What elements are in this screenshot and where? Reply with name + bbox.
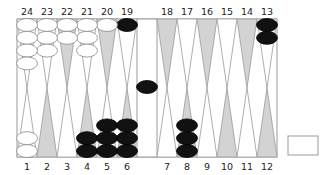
point-label-6: 6 [124, 161, 130, 172]
point-label-17: 17 [181, 6, 193, 17]
point-label-15: 15 [221, 6, 233, 17]
black-checker[interactable] [177, 145, 198, 158]
black-checker[interactable] [97, 145, 118, 158]
white-checker[interactable] [77, 19, 98, 32]
point-label-21: 21 [81, 6, 93, 17]
black-checker[interactable] [117, 145, 138, 158]
point-label-2: 2 [44, 161, 50, 172]
white-checker[interactable] [57, 19, 78, 32]
black-checker[interactable] [257, 31, 278, 44]
black-checker[interactable] [257, 19, 278, 32]
point-label-19: 19 [121, 6, 133, 17]
point-label-24: 24 [21, 6, 33, 17]
point-label-22: 22 [61, 6, 73, 17]
white-checker[interactable] [17, 19, 38, 32]
black-checker[interactable] [177, 119, 198, 132]
point-label-16: 16 [201, 6, 213, 17]
black-checker[interactable] [77, 132, 98, 145]
black-checker[interactable] [117, 119, 138, 132]
bar-black-checker[interactable] [137, 81, 158, 94]
white-checker[interactable] [17, 132, 38, 145]
white-checker[interactable] [37, 31, 58, 44]
white-checker[interactable] [17, 145, 38, 158]
point-label-14: 14 [241, 6, 253, 17]
black-checker[interactable] [177, 132, 198, 145]
black-checker[interactable] [117, 19, 138, 32]
point-label-7: 7 [164, 161, 170, 172]
point-label-10: 10 [221, 161, 233, 172]
point-label-4: 4 [84, 161, 90, 172]
point-label-11: 11 [241, 161, 253, 172]
point-label-12: 12 [261, 161, 273, 172]
white-checker[interactable] [17, 57, 38, 70]
point-label-13: 13 [261, 6, 273, 17]
white-checker[interactable] [37, 19, 58, 32]
point-label-1: 1 [24, 161, 30, 172]
backgammon-board: 242322212019181716151413123456789101112 [0, 0, 328, 175]
white-checker[interactable] [97, 19, 118, 32]
white-checker[interactable] [37, 44, 58, 57]
black-checker[interactable] [117, 132, 138, 145]
dice-box[interactable] [288, 136, 318, 155]
point-label-5: 5 [104, 161, 110, 172]
point-label-8: 8 [184, 161, 190, 172]
black-checker[interactable] [97, 119, 118, 132]
black-checker[interactable] [77, 145, 98, 158]
point-label-9: 9 [204, 161, 210, 172]
point-label-23: 23 [41, 6, 53, 17]
point-label-3: 3 [64, 161, 70, 172]
white-checker[interactable] [77, 44, 98, 57]
point-label-18: 18 [161, 6, 173, 17]
white-checker[interactable] [17, 44, 38, 57]
white-checker[interactable] [77, 31, 98, 44]
point-label-20: 20 [101, 6, 113, 17]
white-checker[interactable] [17, 31, 38, 44]
white-checker[interactable] [57, 31, 78, 44]
black-checker[interactable] [97, 132, 118, 145]
